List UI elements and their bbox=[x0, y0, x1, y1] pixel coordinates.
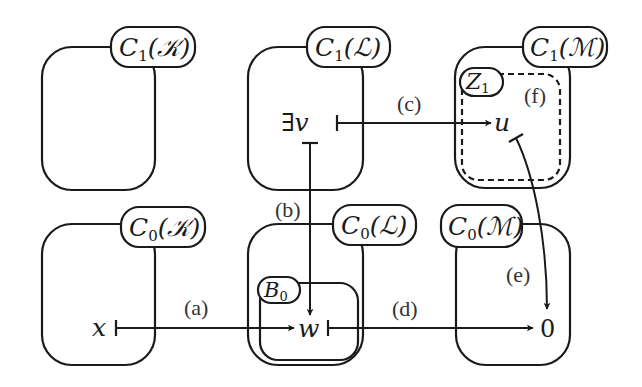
container-c1-k-label: C1(𝒦) bbox=[119, 33, 190, 65]
arrow-d-label: (d) bbox=[392, 296, 418, 321]
container-c1-m: C1(ℳ) Z1 (f) bbox=[455, 27, 607, 188]
container-c0-l: C0(ℒ) B0 bbox=[248, 205, 416, 365]
arrow-e-label: (e) bbox=[506, 262, 530, 287]
arrow-c: (c) bbox=[337, 91, 491, 131]
element-v: ∃v bbox=[281, 108, 309, 137]
arrow-c-label: (c) bbox=[397, 91, 421, 116]
container-c1-m-label: C1(ℳ) bbox=[530, 33, 605, 65]
region-label-f: (f) bbox=[524, 83, 546, 108]
arrow-a-label: (a) bbox=[184, 295, 208, 320]
arrow-b-label: (b) bbox=[275, 197, 301, 222]
container-c1-k: C1(𝒦) bbox=[42, 27, 195, 190]
element-w: w bbox=[298, 314, 319, 343]
container-c0-k: C0(𝒦) bbox=[42, 207, 205, 365]
container-c0-l-label: C0(ℒ) bbox=[341, 211, 407, 243]
container-c1-l: C1(ℒ) bbox=[248, 27, 390, 190]
element-zero: 0 bbox=[540, 315, 555, 343]
commutative-diagram: C1(𝒦) C1(ℒ) C1(ℳ) Z1 (f) C0(𝒦) C0(ℒ) B0 … bbox=[0, 0, 642, 387]
element-u: u bbox=[494, 108, 510, 137]
container-c0-k-label: C0(𝒦) bbox=[129, 213, 200, 245]
element-x: x bbox=[92, 313, 106, 342]
container-c1-k-box bbox=[42, 47, 155, 190]
container-c0-m-label: C0(ℳ) bbox=[448, 212, 523, 244]
container-c1-l-label: C1(ℒ) bbox=[315, 33, 381, 65]
